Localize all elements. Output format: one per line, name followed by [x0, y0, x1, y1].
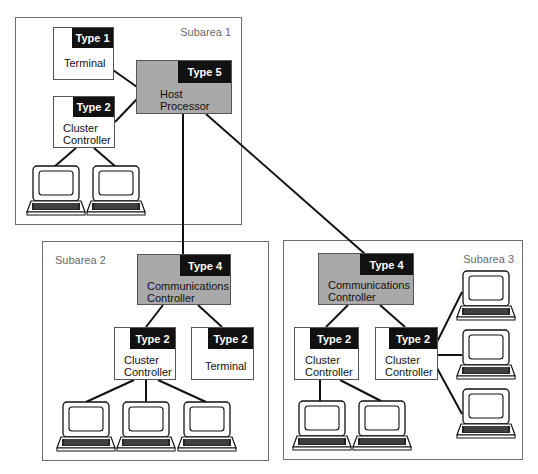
computer-terminal-icon [117, 402, 175, 451]
node-type-tag: Type 4 [360, 254, 413, 275]
computer-terminal-icon [27, 166, 85, 215]
node-type-tag: Type 2 [310, 328, 358, 349]
subarea-3-cluster-controller-left-node: Type 2 Cluster Controller [294, 327, 359, 380]
node-label: Cluster Controller [124, 354, 172, 378]
subarea-1-terminal-node: Type 1 Terminal [53, 27, 114, 80]
computer-terminal-icon [457, 389, 515, 438]
computer-terminal-icon [353, 401, 411, 450]
node-label: Communications Controller [328, 279, 410, 303]
node-type-tag: Type 2 [73, 97, 114, 117]
computer-terminal-icon [57, 402, 115, 451]
node-type-tag: Type 2 [208, 328, 253, 349]
computer-terminal-icon [457, 271, 515, 320]
node-label: Cluster Controller [63, 122, 111, 146]
host-processor-node: Type 5 Host Processor [136, 60, 232, 114]
subarea-2-cluster-controller-node: Type 2 Cluster Controller [114, 327, 176, 380]
computer-terminal-icon [178, 402, 236, 451]
node-type-tag: Type 2 [130, 328, 175, 349]
node-label: Cluster Controller [305, 354, 353, 378]
node-type-tag: Type 5 [178, 61, 231, 83]
node-label: Terminal [64, 57, 106, 69]
node-type-tag: Type 1 [72, 28, 113, 48]
node-label: Cluster Controller [385, 354, 433, 378]
subarea-3-communications-controller-node: Type 4 Communications Controller [318, 253, 414, 305]
node-type-tag: Type 4 [180, 255, 230, 276]
subarea-1-cluster-controller-node: Type 2 Cluster Controller [53, 96, 115, 148]
computer-terminal-icon [87, 166, 145, 215]
subarea-2-terminal-node: Type 2 Terminal [191, 327, 254, 380]
node-label: Host Processor [160, 88, 210, 112]
computer-terminal-icon [293, 401, 351, 450]
node-label: Communications Controller [147, 280, 229, 304]
subarea-3-cluster-controller-right-node: Type 2 Cluster Controller [375, 327, 438, 380]
subarea-2-communications-controller-node: Type 4 Communications Controller [137, 254, 231, 305]
node-label: Terminal [205, 360, 247, 372]
computer-terminal-icon [457, 330, 515, 379]
node-type-tag: Type 2 [389, 328, 437, 349]
